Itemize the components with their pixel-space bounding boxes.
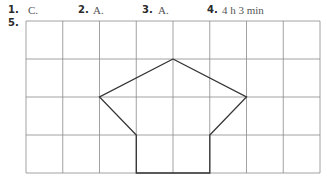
grid-lines xyxy=(26,21,320,173)
question-5-grid-figure xyxy=(0,0,327,180)
